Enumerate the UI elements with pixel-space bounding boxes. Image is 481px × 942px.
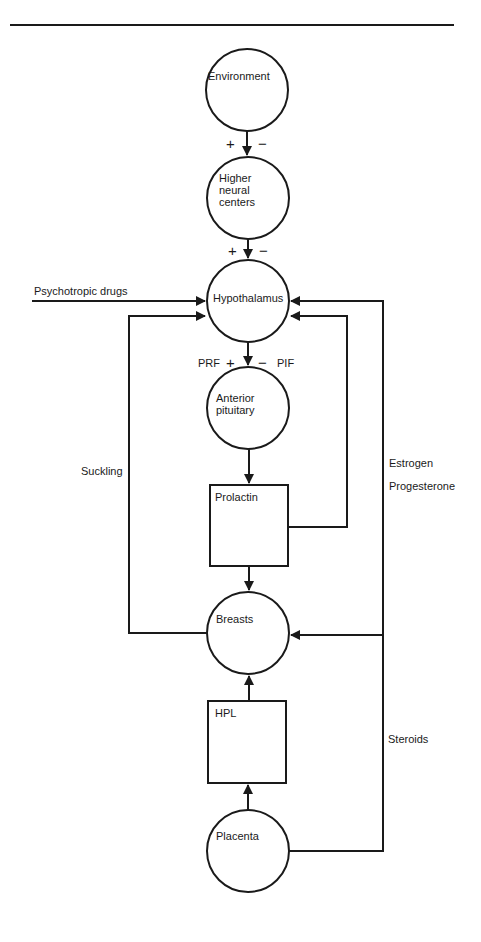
sign-plus-2: +	[228, 242, 237, 259]
node-placenta	[207, 810, 289, 892]
label-steroids: Steroids	[388, 733, 429, 745]
label-hypothalamus: Hypothalamus	[213, 292, 284, 304]
node-breasts	[207, 592, 289, 674]
label-breasts: Breasts	[216, 613, 254, 625]
sign-minus-2: −	[259, 242, 268, 259]
label-environment: Environment	[208, 70, 270, 82]
label-higher-2: neural	[219, 184, 250, 196]
label-anterior-1: Anterior	[216, 392, 255, 404]
sign-minus-3: −	[258, 354, 267, 371]
label-prolactin: Prolactin	[215, 491, 258, 503]
sign-minus-1: −	[258, 135, 267, 152]
arrow-suckling-feedback	[129, 316, 207, 633]
label-progesterone: Progesterone	[389, 480, 455, 492]
sign-plus-3: +	[226, 354, 235, 371]
label-suckling: Suckling	[81, 465, 123, 477]
label-prf: PRF	[198, 357, 220, 369]
label-pif: PIF	[277, 357, 294, 369]
label-anterior-2: pituitary	[216, 404, 255, 416]
label-psychotropic-drugs: Psychotropic drugs	[34, 285, 128, 297]
label-higher-1: Higher	[219, 172, 252, 184]
sign-plus-1: +	[226, 135, 235, 152]
label-hpl: HPL	[215, 707, 236, 719]
label-higher-3: centers	[219, 196, 256, 208]
label-placenta: Placenta	[216, 830, 260, 842]
node-environment	[206, 49, 288, 131]
arrow-steroids-to-hypothalamus	[289, 301, 383, 851]
label-estrogen: Estrogen	[389, 457, 433, 469]
diagram: Environment Higher neural centers Hypoth…	[0, 0, 481, 942]
arrow-prolactin-feedback	[288, 316, 347, 527]
